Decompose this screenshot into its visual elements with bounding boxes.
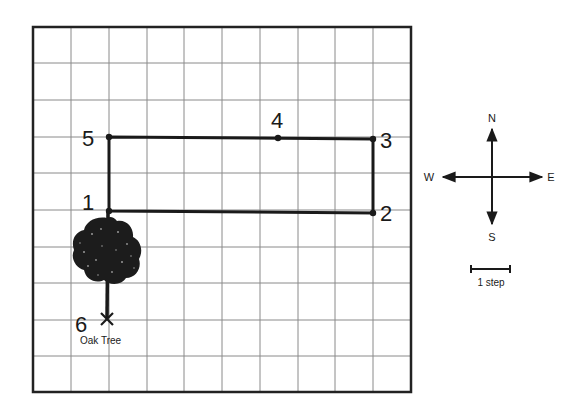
- landmark-label: Oak Tree: [80, 335, 122, 346]
- scale-bar-label: 1 step: [477, 277, 505, 288]
- point-label-2: 2: [380, 201, 392, 226]
- scale-bar: [471, 265, 510, 273]
- compass-north-label: N: [488, 112, 496, 124]
- route-points: [106, 134, 376, 216]
- compass-west-label: W: [424, 171, 435, 183]
- point-label-4: 4: [271, 108, 283, 133]
- point-label-3: 3: [380, 128, 392, 153]
- compass-south-label: S: [488, 231, 495, 243]
- point-label-6: 6: [75, 312, 87, 337]
- compass-east-label: E: [547, 171, 554, 183]
- map-diagram: 1 2 3 4 5 6 Oak Tree N S W E 1 step: [0, 0, 571, 418]
- point-label-1: 1: [82, 190, 94, 215]
- point-label-5: 5: [82, 126, 94, 151]
- compass: N S W E: [424, 112, 555, 243]
- tree-icon: [73, 217, 142, 284]
